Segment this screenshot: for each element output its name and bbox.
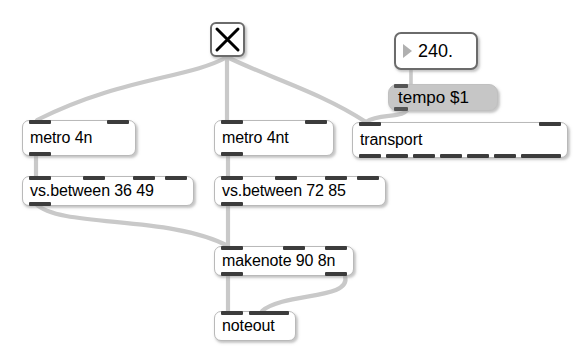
transport-inlet-1[interactable]	[539, 122, 561, 126]
transport-outlet-2[interactable]	[413, 154, 435, 158]
noteout-inlet-0[interactable]	[221, 311, 243, 315]
toggle-x-icon	[212, 24, 243, 55]
metro4n-inlet-0[interactable]	[29, 120, 51, 124]
object-metro-4nt[interactable]: metro 4nt	[214, 120, 334, 156]
vsbetween72-inlet-0[interactable]	[221, 176, 243, 180]
noteout-label: noteout	[222, 317, 275, 335]
message-box-tempo[interactable]: tempo $1	[388, 84, 498, 111]
cord-toggle-to-transport	[227, 57, 366, 122]
cord-makenote-right-to-noteout-middle	[262, 276, 346, 311]
metro4nt-outlet-0[interactable]	[221, 152, 243, 156]
makenote-inlet-0[interactable]	[221, 246, 243, 250]
transport-inlet-0[interactable]	[359, 122, 381, 126]
max-patcher-canvas: 240. tempo $1 metro 4n metro 4nt transpo…	[0, 0, 576, 362]
object-metro-4n[interactable]: metro 4n	[22, 120, 136, 156]
toggle-object[interactable]	[210, 22, 245, 57]
object-noteout[interactable]: noteout	[214, 311, 296, 341]
vsbetween36-inlet-0[interactable]	[29, 176, 51, 180]
transport-outlet-7[interactable]	[539, 154, 561, 158]
vsbetween36-label: vs.between 36 49	[30, 182, 154, 200]
makenote-label: makenote 90 8n	[222, 252, 335, 270]
metro4nt-label: metro 4nt	[222, 129, 289, 147]
noteout-inlet-2[interactable]	[267, 311, 289, 315]
makenote-inlet-2[interactable]	[325, 246, 347, 250]
transport-outlet-5[interactable]	[494, 154, 516, 158]
makenote-outlet-0[interactable]	[221, 272, 243, 276]
makenote-inlet-1[interactable]	[283, 246, 305, 250]
transport-outlet-1[interactable]	[386, 154, 408, 158]
metro4n-outlet-0[interactable]	[29, 152, 51, 156]
transport-outlet-0[interactable]	[359, 154, 381, 158]
makenote-outlet-1[interactable]	[325, 272, 347, 276]
vsbetween36-outlet-0[interactable]	[29, 202, 51, 206]
message-inlet-0[interactable]	[394, 84, 408, 88]
cord-toggle-to-metro4n	[37, 57, 227, 120]
vsbetween72-inlet-3[interactable]	[357, 176, 379, 180]
transport-outlet-4[interactable]	[467, 154, 489, 158]
object-vs-between-72-85[interactable]: vs.between 72 85	[214, 176, 386, 206]
object-vs-between-36-49[interactable]: vs.between 36 49	[22, 176, 194, 206]
vsbetween36-inlet-3[interactable]	[165, 176, 187, 180]
message-outlet-0[interactable]	[394, 107, 408, 111]
vsbetween72-label: vs.between 72 85	[222, 182, 346, 200]
object-transport[interactable]: transport	[352, 122, 568, 158]
vsbetween36-inlet-2[interactable]	[133, 176, 155, 180]
metro4n-inlet-1[interactable]	[107, 120, 129, 124]
vsbetween72-outlet-0[interactable]	[221, 202, 243, 206]
number-box[interactable]: 240.	[394, 32, 478, 70]
transport-outlet-3[interactable]	[440, 154, 462, 158]
metro4n-label: metro 4n	[30, 129, 92, 147]
metro4nt-inlet-1[interactable]	[305, 120, 327, 124]
number-box-value: 240.	[418, 41, 453, 62]
object-makenote[interactable]: makenote 90 8n	[214, 246, 354, 276]
metro4nt-inlet-0[interactable]	[221, 120, 243, 124]
vsbetween36-inlet-1[interactable]	[83, 176, 105, 180]
vsbetween72-inlet-1[interactable]	[275, 176, 297, 180]
transport-label: transport	[360, 131, 422, 149]
cord-vsbetween36-to-makenote	[36, 204, 228, 246]
number-triangle-icon	[403, 44, 412, 58]
vsbetween72-inlet-2[interactable]	[325, 176, 347, 180]
message-box-text: tempo $1	[398, 88, 469, 108]
